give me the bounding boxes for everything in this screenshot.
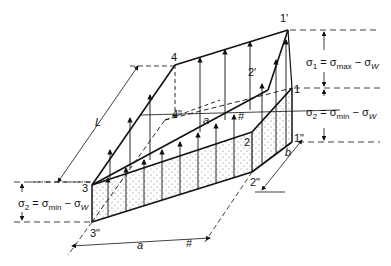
label-1-dprime: 1" [294, 132, 304, 144]
stress-diagram: 1' 1 1" 2' 2 2" 3 3" 4 4" L a # a # b σ1… [0, 0, 391, 266]
parallel-mark-bottom: # [186, 237, 193, 249]
diagram-canvas: 1' 1 1" 2' 2 2" 3 3" 4 4" L a # a # b σ1… [0, 0, 391, 266]
label-3: 3 [82, 182, 88, 194]
label-1-prime: 1' [280, 12, 288, 24]
front-face [92, 88, 300, 222]
dim-a-inner: a [203, 114, 209, 126]
equation-sigma2-right: σ2 = σmin − σW [306, 106, 378, 121]
equation-sigma1: σ1 = σmax − σW [306, 56, 380, 71]
dim-L: L [95, 116, 101, 128]
label-2: 2 [244, 136, 250, 148]
label-3-dprime: 3" [90, 227, 100, 239]
label-2-prime: 2' [248, 66, 256, 78]
dim-a-bottom: a [137, 239, 143, 251]
dim-b: b [285, 146, 291, 158]
label-4-dprime: 4" [172, 108, 182, 120]
parallel-mark-inner: # [238, 110, 245, 122]
label-1: 1 [294, 83, 300, 95]
equation-sigma2-left: σ2 = σmin − σW [18, 197, 90, 212]
label-2-dprime: 2" [250, 176, 260, 188]
label-4: 4 [171, 51, 177, 63]
